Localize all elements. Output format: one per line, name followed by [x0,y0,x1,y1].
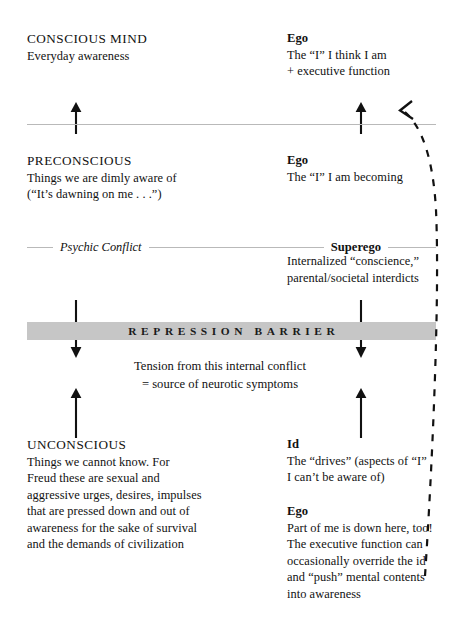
level-line: that are pressed down and out of [27,503,262,520]
feedback-curve-arrow [392,50,471,580]
level-line: Everyday awareness [27,48,242,65]
tension-note-line-2: = source of neurotic symptoms [95,376,345,394]
level-line: and the demands of civilization [27,536,262,553]
level-heading-unconscious: UNCONSCIOUS [27,436,262,454]
structure-heading-ego: Ego [287,30,437,47]
level-heading-conscious: CONSCIOUS MIND [27,30,242,48]
tension-note: Tension from this internal conflict = so… [95,358,345,394]
level-block-unconscious: UNCONSCIOUS Things we cannot know. For F… [27,436,262,553]
rule-segment [149,247,324,248]
psychic-conflict-label: Psychic Conflict [60,240,142,255]
level-line: awareness for the sake of survival [27,520,262,537]
level-block-preconscious: PRECONSCIOUS Things we are dimly aware o… [27,152,242,203]
level-heading-preconscious: PRECONSCIOUS [27,152,242,170]
level-line: Freud these are sexual and [27,470,262,487]
upward-arrow-right-bottom [354,388,368,438]
level-line: Things we are dimly aware of [27,170,242,187]
rule-segment [27,247,53,248]
level-line: aggressive urges, desires, impulses [27,487,262,504]
structure-line: into awareness [287,586,447,603]
upward-arrow-right-top [354,102,368,134]
upward-arrow-left-bottom [69,388,83,438]
level-block-conscious: CONSCIOUS MIND Everyday awareness [27,30,242,64]
repression-barrier-label: REPRESSION BARRIER [124,325,340,337]
conscious-preconscious-divider [27,124,436,125]
upward-arrow-left-top [69,102,83,134]
level-line: Things we cannot know. For [27,454,262,471]
tension-note-line-1: Tension from this internal conflict [95,358,345,376]
level-line: (“It’s dawning on me . . .”) [27,186,242,203]
repression-barrier: REPRESSION BARRIER [27,322,436,340]
freud-mind-diagram: CONSCIOUS MIND Everyday awareness Ego Th… [0,0,471,621]
